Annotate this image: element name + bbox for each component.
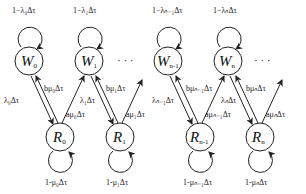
wn-self-loop-label: 1−λₙΔτ (213, 6, 238, 15)
r1-self-loop-arrow (108, 151, 132, 172)
w1-self-loop-label: 1−λ₁Δτ (73, 6, 97, 15)
r1-self-loop-label: 1-μ₁Δτ (106, 178, 129, 187)
wn1-to-rn1-label: λₙ₋₁Δτ (152, 96, 175, 105)
ellipsis-2: · · · (254, 54, 271, 66)
w1-to-r1-label: λ₁Δτ (80, 96, 96, 105)
column-0: 1−λ₀Δτ W0 λ₀Δτ bμ₀Δτ aμ₀Δτ R0 1-μ₀Δτ (4, 6, 86, 187)
rn1-to-wn-label: aμₙ₋₁Δτ (205, 110, 232, 119)
ellipsis-1: · · · (117, 54, 134, 66)
column-n: 1−λₙΔτ Wn λₙΔτ bμₙΔτ aμₙΔτ Rn 1-μₙΔτ (213, 6, 286, 187)
column-1: 1−λ₁Δτ W1 λ₁Δτ bμ₁Δτ aμ₁Δτ R1 1-μ₁Δτ (73, 6, 146, 187)
r0-to-w1-label: aμ₀Δτ (66, 110, 86, 119)
r0-self-loop-arrow (48, 151, 72, 172)
rn1-self-loop-arrow (188, 151, 212, 172)
w0-to-r0-label: λ₀Δτ (4, 96, 20, 105)
wn-self-loop-arrow (217, 27, 241, 49)
r1-to-w2-label: aμ₁Δτ (126, 110, 146, 119)
wn1-self-loop-arrow (157, 27, 181, 49)
rn-self-loop-label: 1-μₙΔτ (245, 178, 268, 187)
rn-to-wn-label: bμₙΔτ (246, 84, 266, 93)
rn1-to-wn1-label: bμₙ₋₁Δτ (186, 84, 213, 93)
w1-self-loop-arrow (78, 27, 102, 49)
r1-to-w1-label: bμ₁Δτ (106, 84, 126, 93)
rn-self-loop-arrow (248, 151, 272, 172)
rn1-self-loop-label: 1-μₙ₋₁Δτ (183, 178, 213, 187)
wn1-self-loop-label: 1−λₙ₋₁Δτ (152, 6, 183, 15)
rn-to-wn1-label: aμₙΔτ (266, 110, 286, 119)
w0-self-loop-label: 1−λ₀Δτ (12, 6, 36, 15)
r0-to-w0-label: bμ₀Δτ (44, 84, 64, 93)
w0-self-loop-arrow (18, 27, 42, 49)
r0-self-loop-label: 1-μ₀Δτ (45, 178, 68, 187)
markov-chain-diagram: 1−λ₀Δτ W0 λ₀Δτ bμ₀Δτ aμ₀Δτ R0 1-μ₀Δτ 1−λ… (0, 0, 306, 194)
column-n-minus-1: 1−λₙ₋₁Δτ Wn-1 λₙ₋₁Δτ bμₙ₋₁Δτ aμₙ₋₁Δτ Rn-… (152, 6, 232, 187)
wn-to-rn-label: λₙΔτ (221, 96, 237, 105)
